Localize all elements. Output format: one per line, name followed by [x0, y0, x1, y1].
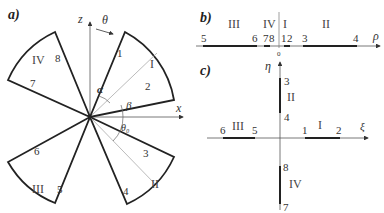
sector-IV: IV 8 7: [8, 32, 90, 117]
rho-axis-label: ρ: [372, 29, 379, 43]
edge-2-label: 2: [145, 80, 151, 92]
point-1-label: 1: [281, 32, 287, 44]
panel-a: a) z x θ I 1 2 IV 8 7 III 6 5: [8, 7, 183, 204]
segment-I-label: I: [318, 118, 322, 132]
edge-4-label: 4: [123, 185, 129, 197]
point-4-label: 4: [353, 32, 359, 44]
point-6-label: 6: [252, 32, 258, 44]
edge-6-label: 6: [34, 145, 40, 157]
point-4-label: 4: [284, 111, 290, 123]
panel-c-label: c): [200, 63, 211, 79]
point-6-label: 6: [220, 124, 226, 136]
xi-axis-label: ξ: [360, 120, 365, 133]
point-3-label: 3: [284, 75, 290, 87]
point-1-label: 1: [302, 124, 308, 136]
theta0-label: θ₀: [121, 122, 130, 133]
point-8-label: 8: [283, 161, 289, 173]
x-axis-label: x: [175, 101, 182, 115]
point-2-label: 2: [336, 124, 342, 136]
sector-II-label: II: [151, 177, 159, 191]
region-I-label: I: [283, 17, 287, 31]
origin-point: [88, 115, 92, 119]
region-II-label: II: [322, 17, 330, 31]
panel-b: b) ρ 0 III IV I II 5 6 7 8 1 2 3 4: [196, 10, 380, 58]
region-IV-label: IV: [263, 17, 276, 31]
sector-III: III 6 5: [8, 117, 90, 203]
z-axis-label: z: [77, 12, 83, 26]
edge-5-label: 5: [57, 183, 63, 195]
sector-II: II 3 4: [90, 117, 174, 204]
panel-c: c) η ξ 3 4 II 6 5 III 1 2 I 8 7 IV: [200, 59, 368, 213]
segment-III-label: III: [232, 119, 244, 133]
point-7-label: 7: [283, 201, 289, 213]
segment-IV-label: IV: [289, 177, 302, 191]
edge-8-label: 8: [55, 52, 61, 64]
point-5-label: 5: [201, 32, 207, 44]
beta-label: β: [125, 99, 132, 111]
edge-7-label: 7: [30, 77, 36, 89]
theta-label: θ: [102, 13, 108, 27]
segment-II-label: II: [287, 90, 295, 104]
sector-I-label: I: [150, 57, 154, 71]
point-3-label: 3: [302, 32, 308, 44]
edge-1-label: 1: [117, 47, 123, 59]
point-2-label: 2: [287, 32, 293, 44]
eta-axis-label: η: [265, 59, 271, 73]
edge-3-label: 3: [143, 147, 149, 159]
sector-IV-label: IV: [32, 53, 45, 67]
sector-III-label: III: [32, 182, 44, 196]
panel-b-label: b): [200, 10, 212, 26]
sector-I: I 1 2: [90, 32, 174, 117]
rotation-arrow: [96, 29, 113, 34]
point-8-label: 8: [269, 32, 275, 44]
region-III-label: III: [228, 17, 240, 31]
origin-label: 0: [277, 50, 281, 58]
figure-canvas: a) z x θ I 1 2 IV 8 7 III 6 5: [0, 0, 384, 213]
point-5-label: 5: [252, 124, 258, 136]
panel-a-label: a): [8, 7, 20, 23]
alpha-label: α: [97, 83, 104, 95]
